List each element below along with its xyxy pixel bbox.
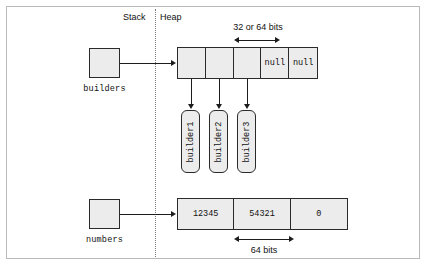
dimension-line-numbers xyxy=(238,239,290,240)
heap-object-builder2: builder2 xyxy=(209,110,228,173)
bits-annotation-builders: 32 or 64 bits xyxy=(203,22,313,32)
builders-array: null null xyxy=(177,47,318,79)
builders-array-cell xyxy=(206,48,234,78)
builders-array-cell-null: null xyxy=(261,48,289,78)
dimension-arrowhead-left-numbers xyxy=(234,236,239,242)
pointer-line-numbers xyxy=(120,214,172,215)
builders-array-cell xyxy=(234,48,262,78)
stack-region-label: Stack xyxy=(123,12,146,23)
heap-object-label: builder3 xyxy=(242,121,252,162)
stack-box-builders xyxy=(89,48,120,78)
builders-array-cell-null: null xyxy=(289,48,317,78)
numbers-array: 12345 54321 0 xyxy=(177,198,348,230)
memory-layout-diagram: Stack Heap builders null null 32 or 64 b… xyxy=(0,0,428,267)
stack-var-label-builders: builders xyxy=(69,84,140,94)
numbers-array-cell: 54321 xyxy=(234,199,290,229)
heap-object-label: builder2 xyxy=(214,121,224,162)
heap-object-builder3: builder3 xyxy=(237,110,256,173)
reference-line-builder1 xyxy=(191,79,192,105)
pointer-arrowhead-builders xyxy=(171,60,176,66)
stack-var-label-numbers: numbers xyxy=(69,235,140,245)
numbers-array-cell: 12345 xyxy=(178,199,234,229)
dimension-line-builders xyxy=(238,40,276,41)
numbers-array-cell: 0 xyxy=(291,199,347,229)
reference-line-builder2 xyxy=(219,79,220,105)
heap-object-builder1: builder1 xyxy=(181,110,200,173)
stack-box-numbers xyxy=(89,199,120,229)
reference-arrowhead-builder2 xyxy=(216,104,222,109)
dimension-arrowhead-left-builders xyxy=(234,37,239,43)
dimension-arrowhead-right-builders xyxy=(275,37,280,43)
reference-arrowhead-builder3 xyxy=(244,104,250,109)
heap-object-label: builder1 xyxy=(186,121,196,162)
bits-annotation-numbers: 64 bits xyxy=(212,245,316,255)
reference-arrowhead-builder1 xyxy=(188,104,194,109)
pointer-line-builders xyxy=(120,63,172,64)
heap-region-label: Heap xyxy=(160,12,182,23)
pointer-arrowhead-numbers xyxy=(171,211,176,217)
builders-array-cell xyxy=(178,48,206,78)
stack-heap-divider xyxy=(155,9,156,257)
dimension-arrowhead-right-numbers xyxy=(289,236,294,242)
reference-line-builder3 xyxy=(247,79,248,105)
